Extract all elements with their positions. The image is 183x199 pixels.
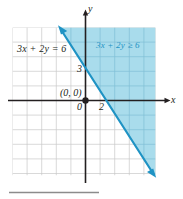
coordinate-plane-svg	[0, 0, 183, 199]
inequality-graph-figure: 3x + 2y = 6 3x + 2y ≥ 6 (0, 0) 0 3 2 y x	[0, 0, 183, 199]
y-intercept-tick-label: 3	[77, 64, 82, 74]
inequality-label: 3x + 2y ≥ 6	[96, 41, 140, 50]
test-point-marker	[82, 97, 88, 103]
x-axis-label: x	[171, 95, 175, 105]
x-intercept-tick-label: 2	[99, 102, 104, 112]
x-axis-arrow	[165, 98, 171, 103]
y-axis-label: y	[88, 4, 92, 14]
test-point-label: (0, 0)	[60, 88, 82, 98]
boundary-equation-label: 3x + 2y = 6	[17, 44, 67, 54]
origin-tick-label: 0	[77, 102, 82, 112]
